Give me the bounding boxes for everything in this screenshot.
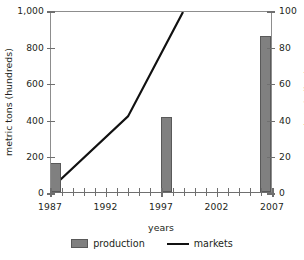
y-tick-label-right: 60 [279, 79, 304, 88]
x-tick-label: 1997 [138, 202, 184, 211]
x-tick-minor [250, 188, 251, 196]
y-tick-label-right: 100 [279, 6, 304, 15]
y-tick-label-left: 1,000 [4, 6, 44, 15]
bar-swatch-icon [71, 239, 88, 248]
legend-item-markets: markets [167, 238, 233, 249]
y-tick-label-right: 40 [279, 116, 304, 125]
x-tick-minor [173, 188, 174, 196]
x-tick-major [50, 188, 51, 197]
bar-production [161, 117, 172, 192]
y-tick-right [267, 84, 275, 85]
plot-area [50, 11, 272, 193]
x-tick-minor [206, 188, 207, 196]
x-axis-title: years [50, 222, 272, 233]
y-tick-label-right: 0 [279, 188, 304, 197]
x-tick-minor [95, 188, 96, 196]
y-tick-label-left: 600 [4, 79, 44, 88]
x-tick-major [106, 188, 107, 197]
bar-production [260, 36, 271, 192]
y-tick-label-left: 200 [4, 152, 44, 161]
x-tick-label: 1987 [27, 202, 73, 211]
y-tick-right [267, 11, 275, 12]
x-tick-minor [73, 188, 74, 196]
chart-legend: production markets [0, 238, 304, 249]
x-tick-label: 2007 [249, 202, 295, 211]
y-tick-label-right: 80 [279, 43, 304, 52]
x-tick-major [217, 188, 218, 197]
legend-label-production: production [93, 238, 145, 249]
y-axis-title-right: markets in Ibadan [288, 11, 301, 193]
y-tick-left [47, 84, 55, 85]
x-tick-label: 2002 [194, 202, 240, 211]
x-tick-minor [195, 188, 196, 196]
chart-figure: metric tons (hundreds) markets in Ibadan… [0, 0, 304, 260]
legend-item-production: production [71, 238, 145, 249]
x-tick-minor [84, 188, 85, 196]
y-tick-right [267, 121, 275, 122]
x-tick-major [272, 188, 273, 197]
x-tick-minor [128, 188, 129, 196]
plot-clip [51, 12, 271, 192]
y-tick-label-left: 0 [4, 188, 44, 197]
x-tick-minor [184, 188, 185, 196]
x-tick-minor [139, 188, 140, 196]
x-tick-minor [117, 188, 118, 196]
y-axis-title-left-text: metric tons (hundreds) [2, 11, 15, 193]
y-tick-left [47, 48, 55, 49]
legend-label-markets: markets [194, 238, 233, 249]
y-tick-label-right: 20 [279, 152, 304, 161]
x-tick-major [161, 188, 162, 197]
x-tick-minor [228, 188, 229, 196]
x-tick-minor [150, 188, 151, 196]
y-tick-left [47, 11, 55, 12]
y-tick-right [267, 157, 275, 158]
y-tick-label-left: 400 [4, 116, 44, 125]
y-tick-right [267, 48, 275, 49]
y-axis-title-right-text: markets in Ibadan [301, 11, 304, 193]
x-tick-label: 1992 [83, 202, 129, 211]
line-swatch-icon [167, 243, 189, 245]
y-tick-left [47, 157, 55, 158]
x-tick-minor [261, 188, 262, 196]
x-tick-minor [239, 188, 240, 196]
y-tick-label-left: 800 [4, 43, 44, 52]
y-tick-left [47, 121, 55, 122]
x-tick-minor [62, 188, 63, 196]
bar-production [51, 163, 61, 192]
y-tick-right [267, 193, 275, 194]
y-axis-title-left: metric tons (hundreds) [4, 11, 17, 193]
